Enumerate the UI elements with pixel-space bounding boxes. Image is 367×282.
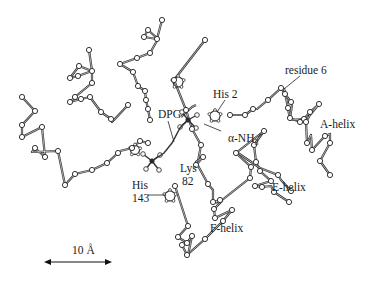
alpha-carbon-node	[141, 34, 146, 39]
alpha-carbon-node	[189, 126, 194, 131]
alpha-carbon-node	[42, 154, 47, 159]
alpha-carbon-node	[19, 94, 24, 99]
alpha-carbon-node	[202, 37, 207, 42]
alpha-carbon-node	[286, 199, 291, 204]
ring-atom	[134, 143, 137, 146]
alpha-carbon-node	[252, 183, 257, 188]
alpha-carbon-node	[257, 168, 262, 173]
label-a-helix: A-helix	[320, 118, 355, 130]
scale-arrow-right-icon	[105, 259, 112, 265]
alpha-carbon-node	[72, 94, 77, 99]
label-alpha-nh3-subscript: 3	[254, 138, 258, 147]
alpha-carbon-node	[210, 199, 215, 204]
ring-atom	[137, 153, 140, 156]
alpha-carbon-node	[327, 172, 332, 177]
alpha-carbon-node	[130, 69, 135, 74]
alpha-carbon-node	[250, 106, 255, 111]
alpha-carbon-node	[145, 27, 150, 32]
label-his-2: His 2	[213, 88, 238, 100]
alpha-carbon-node	[108, 116, 113, 121]
alpha-carbon-node	[304, 140, 309, 145]
alpha-carbon-node	[98, 109, 103, 114]
scale-bar	[44, 259, 112, 265]
alpha-carbon-node	[205, 181, 210, 186]
alpha-carbon-node	[134, 55, 139, 60]
ring-atom	[165, 200, 168, 203]
ring-atom	[177, 75, 180, 78]
ring-atom	[217, 120, 220, 123]
ring-atom	[169, 189, 172, 192]
label-residue-6: residue 6	[285, 64, 327, 76]
alpha-carbon-node	[309, 147, 314, 152]
alpha-carbon-node	[233, 150, 238, 155]
alpha-carbon-node	[265, 97, 270, 102]
alpha-carbon-node	[89, 167, 94, 172]
ring-atom	[139, 147, 142, 150]
residue6-pointer	[284, 76, 300, 89]
alpha-carbon-node	[316, 101, 321, 106]
alpha-carbon-node	[285, 105, 290, 110]
alpha-carbon-node	[75, 73, 80, 78]
dpg-oxygen-atom	[195, 113, 200, 118]
alpha-carbon-node	[171, 77, 176, 82]
alpha-carbon-node	[259, 184, 264, 189]
label-scale: 10 Å	[72, 244, 95, 256]
alpha-carbon-node	[87, 94, 92, 99]
alpha-carbon-node	[159, 17, 164, 22]
alpha-carbon-node	[129, 145, 134, 150]
label-his-143-line2: 143	[132, 192, 149, 204]
ring-atom	[214, 109, 217, 112]
alpha-carbon-node	[39, 124, 44, 129]
alpha-carbon-node	[86, 47, 91, 52]
alpha-carbon-node	[32, 108, 37, 113]
alpha-carbon-node	[275, 172, 280, 177]
alpha-carbon-node	[175, 234, 180, 239]
dpg-pointer	[168, 121, 174, 142]
alpha-carbon-node	[198, 142, 203, 147]
alpha-carbon-node	[184, 252, 189, 257]
alpha-carbon-node	[137, 138, 142, 143]
alpha-carbon-node	[322, 133, 327, 138]
ring-atom	[180, 86, 183, 89]
alpha-carbon-node	[143, 97, 148, 102]
alpha-carbon-node	[288, 99, 293, 104]
alpha-carbon-node	[147, 50, 152, 55]
alpha-carbon-node	[145, 140, 150, 145]
label-lys-82-line2: 82	[182, 175, 194, 187]
ring-atom	[219, 113, 222, 116]
label-alpha-nh3-charge: +	[258, 130, 263, 139]
alpha-carbon-node	[172, 183, 177, 188]
alpha-carbon-node	[154, 36, 159, 41]
alpha-carbon-node	[183, 107, 188, 112]
ring-atom	[208, 113, 211, 116]
alpha-carbon-node	[76, 63, 81, 68]
alpha-carbon-node	[67, 99, 72, 104]
alpha-carbon-node	[89, 80, 94, 85]
alpha-carbon-node	[278, 85, 283, 90]
alpha-carbon-node	[211, 206, 216, 211]
alpha-carbon-node	[72, 171, 77, 176]
his2-pointer	[217, 100, 225, 112]
alpha-carbon-node	[200, 154, 205, 159]
alpha-carbon-node	[303, 119, 308, 124]
label-e-helix: E-helix	[272, 181, 306, 193]
label-f-helix: F-helix	[210, 222, 243, 234]
alpha-carbon-node	[78, 96, 83, 101]
alpha-carbon-node	[317, 158, 322, 163]
alpha-carbon-node	[62, 182, 67, 187]
alpha-carbon-node	[142, 88, 147, 93]
alpha-carbon-node	[242, 112, 247, 117]
alpha-carbon-node	[189, 233, 194, 238]
alpha-carbon-node	[217, 197, 222, 202]
alpha-carbon-node	[117, 61, 122, 66]
backbone-graphic	[0, 0, 367, 282]
alpha-carbon-node	[282, 91, 287, 96]
ring-atom	[182, 79, 185, 82]
alpha-carbon-node	[135, 83, 140, 88]
label-alpha-nh3-text: α-NH	[228, 132, 254, 144]
ring-atom	[210, 120, 213, 123]
label-dpg: DPG	[158, 108, 181, 120]
alpha-nh3-pointer	[204, 124, 221, 131]
dpg-oxygen-atom	[141, 152, 146, 157]
alpha-carbon-node	[89, 68, 94, 73]
